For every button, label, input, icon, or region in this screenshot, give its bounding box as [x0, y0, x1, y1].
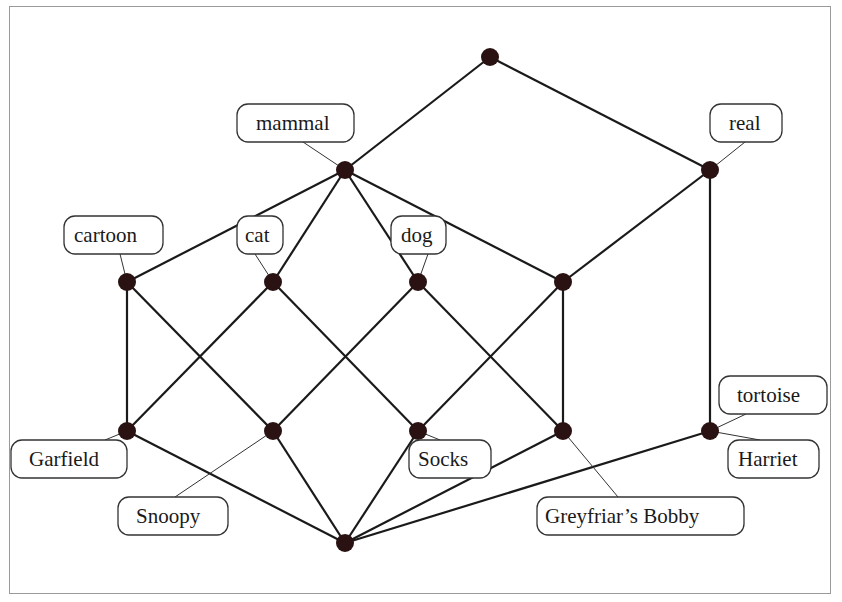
label-text: Garfield	[29, 447, 99, 471]
edge-top-real	[490, 57, 710, 170]
label-text: mammal	[256, 111, 330, 135]
label-text: cat	[245, 223, 270, 247]
label-text: tortoise	[737, 383, 800, 407]
node-real	[701, 161, 719, 179]
label-tortoise-Harriet: Harriet	[728, 440, 819, 478]
label-text: Greyfriar’s Bobby	[545, 504, 700, 528]
label-text: Snoopy	[136, 504, 201, 528]
node-bottom	[336, 534, 354, 552]
label-cartoon: cartoon	[64, 216, 163, 254]
leader-line	[563, 431, 618, 497]
edge-Socks-bottom	[345, 431, 418, 543]
label-tortoise-Harriet: tortoise	[719, 376, 827, 414]
node-dog	[409, 273, 427, 291]
label-Snoopy: Snoopy	[118, 497, 228, 535]
node-top	[481, 48, 499, 66]
label-Garfield: Garfield	[11, 440, 127, 478]
edge-mammal-real-mammal	[345, 170, 563, 282]
node-tortoise-Harriet	[701, 422, 719, 440]
label-mammal: mammal	[237, 104, 354, 142]
node-cartoon	[118, 273, 136, 291]
label-real: real	[710, 104, 782, 142]
node-Garfield	[118, 422, 136, 440]
edge-real-real-mammal	[563, 170, 710, 282]
label-text: real	[729, 111, 761, 135]
label-Socks: Socks	[409, 440, 491, 478]
node-Socks	[409, 422, 427, 440]
node-cat	[264, 273, 282, 291]
label-dog: dog	[391, 216, 446, 254]
label-text: dog	[401, 223, 433, 247]
node-Snoopy	[264, 422, 282, 440]
node-real-mammal	[554, 273, 572, 291]
concept-lattice-diagram: mammalrealcartooncatdogGarfieldSnoopySoc…	[0, 0, 842, 602]
node-mammal	[336, 161, 354, 179]
edge-Snoopy-bottom	[273, 431, 345, 543]
edge-top-mammal	[345, 57, 490, 170]
edge-mammal-cat	[273, 170, 345, 282]
label-text: Harriet	[738, 447, 798, 471]
label-text: Socks	[418, 447, 468, 471]
label-cat: cat	[237, 216, 283, 254]
label-Greyfriars-Bobby: Greyfriar’s Bobby	[537, 497, 744, 535]
node-Greyfriars-Bobby	[554, 422, 572, 440]
label-text: cartoon	[74, 223, 137, 247]
